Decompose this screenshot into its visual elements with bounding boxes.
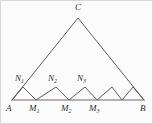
zigzag-sawtooth-path <box>12 87 144 100</box>
figure-svg <box>1 1 153 124</box>
label-A: A <box>6 104 12 113</box>
label-M1: M1 <box>29 104 40 113</box>
triangle-abc-sides <box>12 18 144 100</box>
label-M2: M2 <box>61 104 72 113</box>
label-M3: M3 <box>89 104 100 113</box>
label-C: C <box>75 3 81 12</box>
label-N3: N3 <box>77 74 86 83</box>
label-N2: N2 <box>48 74 57 83</box>
label-B: B <box>140 104 146 113</box>
geometry-figure: C N1 N2 N3 A M1 M2 M3 B <box>0 0 153 124</box>
label-N1: N1 <box>15 74 24 83</box>
